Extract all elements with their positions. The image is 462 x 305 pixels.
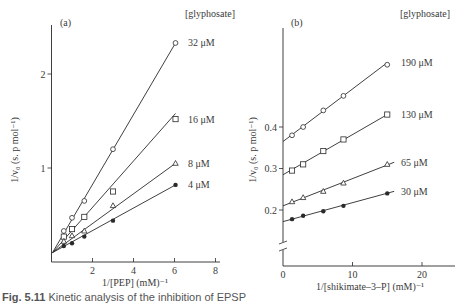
legend-title: [glyphosate] [185, 8, 235, 19]
panel-label: (a) [60, 17, 71, 29]
panel-b-chart: 010200.20.30.4(b)[glyphosate]1/[shikimat… [247, 8, 455, 293]
y-tick-label: 0.3 [265, 163, 278, 174]
marker-open-square-icon [82, 214, 87, 219]
x-axis-title: 1/[PEP] (mM)⁻¹ [102, 277, 168, 289]
marker-open-square-icon [385, 112, 390, 117]
marker-open-circle-icon [61, 229, 66, 234]
x-tick-label: 6 [172, 265, 177, 276]
x-tick-label: 20 [417, 269, 427, 280]
marker-filled-circle-icon [82, 234, 86, 238]
series-label: 130 μM [401, 109, 433, 120]
marker-filled-circle-icon [321, 209, 325, 213]
marker-open-circle-icon [111, 147, 116, 152]
marker-open-circle-icon [70, 215, 75, 220]
marker-filled-circle-icon [173, 183, 177, 187]
series-label: 8 μM [188, 158, 210, 169]
figure-caption: Fig. 5.11 Kinetic analysis of the inhibi… [2, 291, 302, 305]
marker-open-square-icon [173, 117, 178, 122]
marker-open-square-icon [289, 168, 294, 173]
data-series: 30 μM [283, 186, 428, 222]
fit-line [283, 115, 387, 175]
x-axis-title: 1/[shikimate–3–P] (mM)⁻¹ [316, 281, 424, 293]
marker-open-triangle-icon [110, 203, 115, 208]
marker-filled-circle-icon [301, 214, 305, 218]
marker-open-circle-icon [341, 93, 346, 98]
fit-line [283, 63, 387, 142]
caption-text: Kinetic analysis of the inhibition of EP… [48, 291, 246, 303]
marker-open-circle-icon [290, 133, 295, 138]
x-tick-label: 4 [131, 265, 136, 276]
y-axis-title: 1/v₀ (s. p mol⁻¹) [247, 117, 259, 183]
y-tick-label: 0.4 [265, 122, 278, 133]
marker-open-square-icon [301, 162, 306, 167]
fit-line [283, 162, 394, 206]
series-label: 65 μM [401, 157, 428, 168]
marker-filled-circle-icon [341, 204, 345, 208]
marker-filled-circle-icon [385, 191, 389, 195]
y-axis-title: 1/v₀ (s. p mol⁻¹) [9, 117, 21, 183]
panel-label: (b) [291, 17, 303, 29]
series-label: 4 μM [188, 179, 210, 190]
legend-title: [glyphosate] [400, 8, 450, 19]
marker-open-square-icon [69, 227, 74, 232]
series-label: 32 μM [188, 37, 215, 48]
marker-open-square-icon [110, 189, 115, 194]
marker-open-triangle-icon [173, 161, 178, 166]
marker-open-circle-icon [321, 108, 326, 113]
caption-label: Fig. 5.11 [2, 291, 45, 303]
marker-open-circle-icon [385, 62, 390, 67]
data-series: 32 μM [53, 37, 215, 252]
marker-open-square-icon [321, 148, 326, 153]
fit-line [283, 191, 394, 221]
figure-canvas: 246812(a)[glyphosate]1/[PEP] (mM)⁻¹1/v₀ … [0, 0, 462, 305]
x-tick-label: 8 [213, 265, 218, 276]
y-tick-label: 1 [41, 163, 46, 174]
data-series: 4 μM [53, 179, 210, 252]
x-tick-label: 2 [90, 265, 95, 276]
y-tick-label: 2 [41, 69, 46, 80]
marker-open-circle-icon [173, 41, 178, 46]
y-tick-label: 0.2 [265, 205, 278, 216]
marker-open-circle-icon [301, 125, 306, 130]
data-series: 8 μM [53, 158, 210, 253]
marker-filled-circle-icon [70, 241, 74, 245]
panel-a-chart: 246812(a)[glyphosate]1/[PEP] (mM)⁻¹1/v₀ … [9, 8, 235, 289]
marker-open-circle-icon [82, 199, 87, 204]
marker-filled-circle-icon [290, 217, 294, 221]
series-label: 30 μM [401, 186, 428, 197]
marker-open-triangle-icon [69, 233, 74, 238]
series-label: 190 μM [401, 57, 433, 68]
series-label: 16 μM [188, 114, 215, 125]
data-series: 190 μM [283, 57, 433, 141]
x-tick-label: 10 [348, 269, 358, 280]
x-tick-label: 0 [281, 269, 286, 280]
marker-filled-circle-icon [111, 218, 115, 222]
marker-open-square-icon [341, 137, 346, 142]
marker-filled-circle-icon [62, 244, 66, 248]
